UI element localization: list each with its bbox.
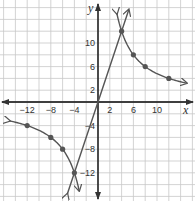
y-tick-label: 6	[90, 62, 95, 72]
data-point	[25, 123, 30, 128]
data-point	[166, 76, 171, 81]
y-axis-label: y	[87, 1, 94, 15]
data-point	[119, 29, 124, 34]
y-tick-label: −12	[80, 168, 95, 178]
x-tick-label: −8	[46, 105, 56, 115]
data-point	[131, 52, 136, 57]
y-tick-label: −8	[85, 144, 95, 154]
data-point	[48, 135, 53, 140]
coordinate-plane: −12−8−426101062−4−8−12 x y	[0, 0, 195, 201]
y-tick-label: 10	[85, 38, 95, 48]
tick-labels: −12−8−426101062−4−8−12	[20, 38, 162, 178]
hyperbola-branch	[10, 121, 80, 191]
x-axis-label: x	[182, 103, 189, 117]
x-tick-label: −4	[69, 105, 79, 115]
data-point	[60, 147, 65, 152]
x-tick-label: 6	[131, 105, 136, 115]
data-point	[72, 170, 77, 175]
y-tick-label: 2	[90, 85, 95, 95]
x-tick-label: 2	[107, 105, 112, 115]
x-tick-label: 10	[152, 105, 162, 115]
data-point	[143, 64, 148, 69]
x-tick-label: −12	[20, 105, 35, 115]
hyperbola-branch	[117, 14, 187, 84]
